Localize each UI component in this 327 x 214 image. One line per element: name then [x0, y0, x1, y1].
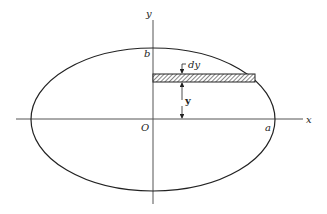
y-axis-label: y — [145, 8, 152, 19]
origin-label: O — [141, 122, 149, 133]
dy-label: dy — [188, 59, 200, 70]
dy-leader — [182, 64, 186, 66]
semi-minor-label: b — [144, 48, 150, 59]
ellipse-diagram: y x O a b dy y — [0, 0, 327, 214]
x-axis-label: x — [306, 114, 312, 125]
hatched-strip — [153, 74, 255, 82]
semi-major-label: a — [265, 122, 271, 133]
strip-height-label: y — [184, 95, 192, 106]
